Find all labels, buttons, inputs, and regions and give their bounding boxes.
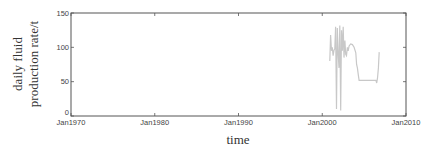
x-tick-label: Jan2010 <box>392 118 421 127</box>
x-tick-label: Jan1980 <box>140 118 169 127</box>
x-tick-label: Jan1990 <box>224 118 253 127</box>
x-tick-label: Jan2000 <box>308 118 337 127</box>
y-tick-label: 0 <box>65 108 69 117</box>
y-axis-label-line2: production rate/t <box>26 20 41 107</box>
y-axis-label-line1: daily fluid <box>10 37 25 91</box>
plot-area <box>71 13 406 116</box>
line-chart: 050100150 Jan1970Jan1980Jan1990Jan2000Ja… <box>0 0 436 151</box>
x-axis-label: time <box>226 132 249 147</box>
y-tick-label: 50 <box>61 77 69 86</box>
y-tick-label: 150 <box>56 9 69 18</box>
x-tick-label: Jan1970 <box>57 118 86 127</box>
y-tick-label: 100 <box>56 43 69 52</box>
